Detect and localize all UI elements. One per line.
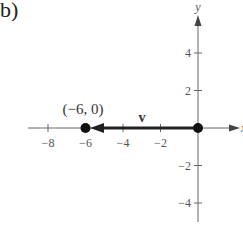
origin-point — [193, 123, 203, 133]
endpoint-label: (−6, 0) — [63, 101, 104, 118]
vector-v-arrowhead-icon — [90, 123, 104, 133]
y-tick-label: −2 — [178, 159, 191, 173]
x-axis-label: x — [240, 121, 243, 135]
y-tick-label: −4 — [178, 196, 191, 210]
x-tick-label: −4 — [117, 136, 130, 150]
y-tick-label: 4 — [185, 46, 191, 60]
vector-label: v — [139, 110, 146, 125]
y-axis-label: y — [194, 0, 201, 14]
vector-chart: −8 −6 −4 −2 4 2 −2 −4 x y (−6, 0) v — [0, 0, 243, 231]
endpoint-point — [81, 123, 91, 133]
y-tick-label: 2 — [185, 84, 191, 98]
x-axis-arrow-icon — [229, 125, 240, 132]
x-tick-label: −6 — [79, 136, 92, 150]
x-tick-label: −8 — [42, 136, 55, 150]
y-axis-arrow-icon — [195, 15, 202, 26]
x-tick-label: −2 — [154, 136, 167, 150]
